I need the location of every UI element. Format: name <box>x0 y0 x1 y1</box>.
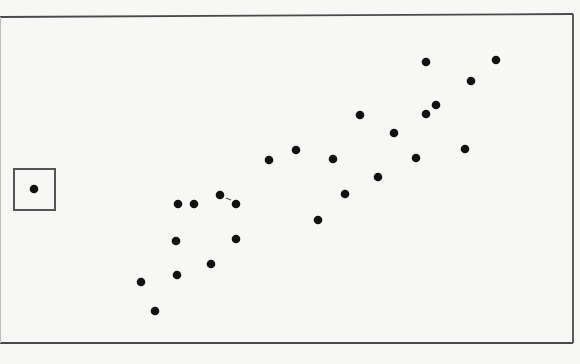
tick-mark <box>226 198 231 200</box>
scatter-plot <box>0 0 580 364</box>
data-point <box>461 145 470 154</box>
data-point <box>422 58 431 67</box>
data-point <box>412 154 421 163</box>
data-point <box>492 56 501 65</box>
data-point <box>467 77 476 86</box>
frame-top-line <box>0 14 573 17</box>
data-point <box>390 129 399 138</box>
data-point <box>314 216 323 225</box>
data-point <box>432 101 441 110</box>
data-point <box>172 237 181 246</box>
plot-frame <box>0 14 573 343</box>
data-point <box>232 235 241 244</box>
data-point <box>292 146 301 155</box>
data-point <box>190 200 199 209</box>
data-point <box>341 190 350 199</box>
data-point <box>422 110 431 119</box>
annotations <box>226 198 231 200</box>
data-point <box>265 156 274 165</box>
data-point <box>374 173 383 182</box>
data-point <box>329 155 338 164</box>
data-point <box>137 278 146 287</box>
data-point <box>207 260 216 269</box>
outlier-point <box>30 185 39 194</box>
outlier-highlight <box>14 169 55 210</box>
data-point <box>173 271 182 280</box>
data-point <box>151 307 160 316</box>
data-point <box>216 191 225 200</box>
data-point <box>174 200 183 209</box>
data-points <box>137 56 501 316</box>
data-point <box>356 111 365 120</box>
data-point <box>232 200 241 209</box>
